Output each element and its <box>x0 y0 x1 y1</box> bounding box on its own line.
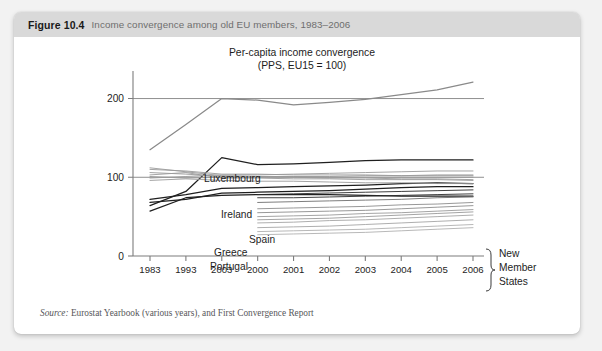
y-tick-label: 100 <box>107 172 124 183</box>
series-line-nms-1 <box>258 190 473 195</box>
y-axis-ticks <box>128 99 133 256</box>
reference-lines-group <box>133 99 484 178</box>
x-tick-label: 2003 <box>355 264 376 275</box>
income-convergence-line-chart: 0100200 19831993200320002001200220032004… <box>14 37 580 302</box>
x-tick-label: 1993 <box>175 264 196 275</box>
new-member-states-bracket <box>486 249 495 291</box>
x-axis-ticks <box>150 256 473 261</box>
figure-number: Figure 10.4 <box>28 19 85 31</box>
y-tick-label: 0 <box>118 251 124 262</box>
series-line-nms-4 <box>258 202 473 208</box>
figure-caption-text: Income convergence among old EU members,… <box>92 19 351 30</box>
figure-caption-bar: Figure 10.4 Income convergence among old… <box>14 12 580 37</box>
series-line-nms-9 <box>258 220 473 228</box>
series-line-nms-10 <box>258 225 473 232</box>
series-label-greece: Greece <box>214 247 248 258</box>
series-label-portugal: Portugal <box>210 261 248 272</box>
x-axis-tick-labels: 1983199320032000200120022003200420052006 <box>139 264 483 275</box>
series-label-luxembourg: Luxembourg <box>204 173 261 184</box>
x-tick-label: 1983 <box>139 264 160 275</box>
x-tick-label: 2002 <box>319 264 340 275</box>
source-note: Source: Eurostat Yearbook (various years… <box>40 308 314 318</box>
series-label-spain: Spain <box>249 234 275 245</box>
nms-label-line-1: New <box>499 248 520 259</box>
chart-plot-area: 0100200 19831993200320002001200220032004… <box>14 37 580 302</box>
chart-title-line-1: Per-capita income convergence <box>229 47 375 58</box>
nms-label-line-2: Member <box>499 262 537 273</box>
source-text: Eurostat Yearbook (various years), and F… <box>69 308 314 318</box>
series-label-ireland: Ireland <box>221 209 252 220</box>
x-tick-label: 2000 <box>247 264 268 275</box>
x-tick-label: 2001 <box>283 264 304 275</box>
x-tick-label: 2005 <box>426 264 447 275</box>
x-tick-label: 2006 <box>462 264 483 275</box>
x-tick-label: 2004 <box>391 264 413 275</box>
figure-card: Figure 10.4 Income convergence among old… <box>14 12 580 334</box>
series-paths-group <box>150 82 473 235</box>
series-line-luxembourg <box>150 82 473 150</box>
source-label: Source: <box>40 308 69 318</box>
y-axis-tick-labels: 0100200 <box>107 93 124 261</box>
nms-label-line-3: States <box>499 276 528 287</box>
y-tick-label: 200 <box>107 93 124 104</box>
chart-title-line-2: (PPS, EU15 = 100) <box>258 60 347 71</box>
